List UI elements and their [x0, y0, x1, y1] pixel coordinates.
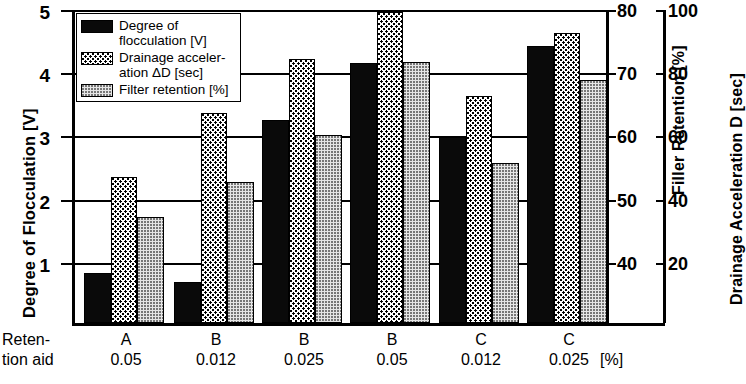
- x-group-dose-5: 0.012: [436, 350, 526, 370]
- bar-drainage-2: [201, 113, 227, 323]
- drainage-axis-tick-label-20: 20: [668, 255, 688, 273]
- drainage-acceleration-axis-line: [663, 10, 666, 323]
- x-group-code-5: C: [436, 330, 526, 350]
- left-axis-tick-label-1: 1: [20, 256, 50, 275]
- drainage-axis-tick-label-60: 60: [668, 128, 688, 146]
- left-axis-tick-4: [61, 73, 72, 75]
- left-axis-tick-label-5: 5: [20, 3, 50, 22]
- filler-axis-tick-50: [606, 200, 616, 202]
- x-group-dose-1: 0.05: [81, 350, 171, 370]
- left-axis-tick-3: [61, 136, 72, 138]
- x-group-label-2: B 0.012: [171, 330, 261, 370]
- legend-label-drainage: Drainage acceler- ation ΔD [sec]: [119, 50, 226, 80]
- x-axis-baseline: [72, 323, 665, 326]
- drainage-axis-tick-60: [656, 136, 664, 138]
- legend-label-filter-retention: Filter retention [%]: [119, 82, 229, 97]
- left-axis-tick-label-3: 3: [20, 129, 50, 148]
- left-axis-tick-2: [61, 200, 72, 202]
- legend-label-flocculation: Degree of flocculation [V]: [119, 18, 207, 48]
- bar-flocculation-4: [350, 63, 377, 323]
- x-group-code-4: B: [347, 330, 437, 350]
- bar-drainage-5: [466, 96, 492, 323]
- bar-filter-retention-3: [315, 135, 342, 323]
- filler-axis-tick-label-60: 60: [617, 128, 637, 146]
- bar-filter-retention-2: [227, 182, 254, 323]
- filler-axis-tick-label-50: 50: [617, 192, 637, 210]
- bar-drainage-4: [377, 12, 403, 323]
- filler-axis-tick-60: [606, 136, 616, 138]
- gridline-5: [75, 10, 611, 12]
- x-group-label-5: C 0.012: [436, 330, 526, 370]
- x-group-code-2: B: [171, 330, 261, 350]
- bar-flocculation-1: [84, 273, 111, 323]
- x-group-label-3: B 0.025: [259, 330, 349, 370]
- filler-axis-tick-40: [606, 263, 616, 265]
- bar-filter-retention-5: [492, 163, 519, 323]
- drainage-acceleration-axis-title: Drainage Acceleration D [sec]: [728, 73, 746, 305]
- bar-flocculation-3: [262, 120, 289, 323]
- filler-axis-tick-70: [606, 73, 616, 75]
- legend-item-drainage: Drainage acceler- ation ΔD [sec]: [81, 50, 235, 80]
- x-group-label-4: B 0.05: [347, 330, 437, 370]
- x-group-code-1: A: [81, 330, 171, 350]
- drainage-axis-tick-80: [656, 73, 664, 75]
- x-axis-unit-label: [%]: [600, 350, 623, 370]
- bar-flocculation-2: [174, 282, 201, 323]
- x-group-code-3: B: [259, 330, 349, 350]
- drainage-axis-tick-label-100: 100: [668, 2, 698, 20]
- x-group-dose-4: 0.05: [347, 350, 437, 370]
- legend: Degree of flocculation [V] Drainage acce…: [76, 13, 241, 102]
- left-axis-tick-5: [61, 10, 72, 12]
- x-group-code-6: C: [524, 330, 614, 350]
- bar-drainage-3: [289, 59, 315, 323]
- left-axis-tick-label-4: 4: [20, 66, 50, 85]
- drainage-axis-tick-100: [656, 10, 664, 12]
- legend-swatch-filter-retention-icon: [81, 84, 113, 97]
- drainage-axis-tick-label-80: 80: [668, 65, 688, 83]
- bar-filter-retention-4: [403, 62, 430, 323]
- bar-filter-retention-1: [137, 217, 164, 323]
- filler-axis-tick-80: [606, 10, 616, 12]
- bar-filter-retention-6: [580, 80, 607, 323]
- bar-flocculation-5: [439, 137, 466, 323]
- legend-item-filter-retention: Filter retention [%]: [81, 82, 235, 97]
- bar-flocculation-6: [527, 46, 554, 323]
- filler-axis-tick-label-80: 80: [617, 2, 637, 20]
- bar-drainage-1: [111, 177, 137, 323]
- x-group-dose-3: 0.025: [259, 350, 349, 370]
- left-axis-tick-label-2: 2: [20, 193, 50, 212]
- filler-retention-axis-line: [606, 10, 609, 323]
- x-axis-title: Reten- tion aid: [2, 330, 54, 370]
- drainage-axis-tick-20: [656, 263, 664, 265]
- legend-swatch-drainage-icon: [81, 52, 113, 65]
- drainage-axis-tick-label-40: 40: [668, 192, 688, 210]
- legend-swatch-flocculation-icon: [81, 20, 113, 33]
- drainage-axis-tick-40: [656, 200, 664, 202]
- x-group-dose-2: 0.012: [171, 350, 261, 370]
- filler-axis-tick-label-70: 70: [617, 65, 637, 83]
- x-group-label-1: A 0.05: [81, 330, 171, 370]
- legend-item-flocculation: Degree of flocculation [V]: [81, 18, 235, 48]
- bar-drainage-6: [554, 33, 580, 323]
- left-axis-tick-1: [61, 263, 72, 265]
- filler-axis-tick-label-40: 40: [617, 255, 637, 273]
